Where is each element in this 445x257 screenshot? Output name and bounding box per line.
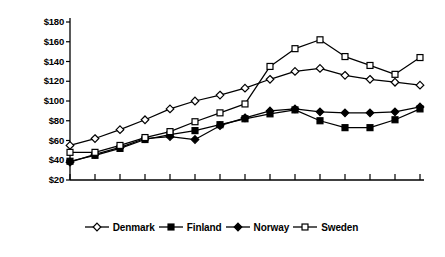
data-point-filled-diamond — [191, 136, 199, 144]
data-point-open-square — [417, 55, 423, 61]
y-axis-tick-label: $180 — [14, 16, 64, 27]
data-point-open-diamond — [93, 223, 101, 231]
y-axis-tick-label: $60 — [14, 135, 64, 146]
data-point-open-square — [92, 149, 98, 155]
data-point-open-square — [367, 62, 373, 68]
chart-legend: DenmarkFinlandNorwaySweden — [0, 215, 445, 239]
y-axis-tick-label: $80 — [14, 115, 64, 126]
legend-item-norway[interactable]: Norway — [225, 220, 293, 234]
data-point-open-square — [167, 129, 173, 135]
data-point-open-square — [342, 54, 348, 60]
data-point-open-square — [317, 37, 323, 43]
y-axis-tick-label: $140 — [14, 56, 64, 67]
y-axis-tick-label: $100 — [14, 95, 64, 106]
series-norway — [66, 103, 424, 166]
legend-item-label: Denmark — [110, 222, 158, 233]
y-axis-tick-label: $160 — [14, 36, 64, 47]
data-point-filled-diamond — [391, 108, 399, 116]
legend-item-denmark[interactable]: Denmark — [84, 220, 158, 234]
y-axis-tick-label: $40 — [14, 154, 64, 165]
data-point-filled-diamond — [234, 223, 242, 231]
data-point-open-square — [67, 149, 73, 155]
data-point-open-diamond — [366, 75, 374, 83]
data-point-open-diamond — [416, 81, 424, 89]
legend-item-sweden[interactable]: Sweden — [292, 220, 361, 234]
data-point-open-square — [117, 142, 123, 148]
legend-item-label: Finland — [184, 222, 225, 233]
data-point-open-diamond — [191, 97, 199, 105]
data-point-filled-square — [317, 118, 323, 124]
y-axis-tick-label: $20 — [14, 174, 64, 185]
data-point-open-square — [267, 63, 273, 69]
data-point-filled-square — [342, 125, 348, 131]
data-point-filled-square — [192, 128, 198, 134]
data-point-open-diamond — [391, 78, 399, 86]
legend-item-finland[interactable]: Finland — [158, 220, 225, 234]
data-point-open-diamond — [91, 135, 99, 143]
data-point-open-diamond — [141, 116, 149, 124]
data-point-open-square — [192, 119, 198, 125]
data-point-filled-square — [168, 224, 174, 230]
data-point-open-diamond — [266, 75, 274, 83]
legend-item-label: Sweden — [318, 222, 361, 233]
data-point-open-diamond — [216, 91, 224, 99]
legend-marker-open-diamond — [84, 220, 110, 234]
data-point-open-square — [392, 71, 398, 77]
legend-item-label: Norway — [251, 222, 293, 233]
data-point-open-diamond — [116, 126, 124, 134]
data-point-open-square — [217, 110, 223, 116]
legend-marker-open-square — [292, 220, 318, 234]
data-point-open-square — [292, 46, 298, 52]
data-point-filled-diamond — [366, 109, 374, 117]
data-point-open-diamond — [166, 105, 174, 113]
chart-figure: $180$160$140$120$100$80$60$40$20 Denmark… — [0, 0, 445, 257]
data-point-filled-square — [392, 117, 398, 123]
data-point-open-square — [142, 135, 148, 141]
data-point-open-diamond — [341, 72, 349, 80]
data-point-open-square — [302, 224, 308, 230]
data-point-open-diamond — [241, 84, 249, 92]
data-point-filled-square — [367, 125, 373, 131]
series-line — [70, 40, 420, 153]
legend-marker-filled-diamond — [225, 220, 251, 234]
data-point-filled-diamond — [316, 108, 324, 116]
data-point-filled-diamond — [341, 109, 349, 117]
data-point-open-diamond — [66, 142, 74, 150]
legend-marker-filled-square — [158, 220, 184, 234]
data-point-open-diamond — [291, 68, 299, 76]
series-sweden — [67, 37, 423, 156]
data-point-open-diamond — [316, 65, 324, 73]
data-point-open-square — [242, 101, 248, 107]
y-axis-tick-label: $120 — [14, 75, 64, 86]
